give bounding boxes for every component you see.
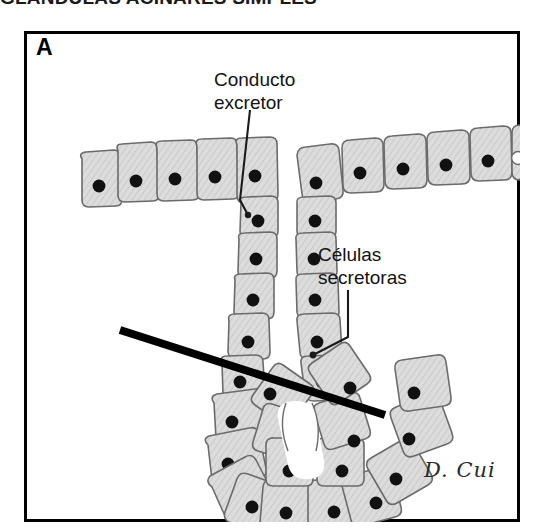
hollow-nucleus-cell bbox=[512, 125, 520, 180]
label-conducto-excretor: Conducto excretor bbox=[214, 68, 295, 114]
surface-epithelium-right bbox=[297, 125, 520, 201]
panel-letter: A bbox=[36, 36, 53, 59]
figure-page: GLÁNDULAS ACINARES SIMPLES bbox=[0, 0, 543, 531]
artist-signature: D. Cui bbox=[424, 458, 496, 482]
label-celulas-secretoras: Células secretoras bbox=[318, 243, 407, 289]
figure-title: GLÁNDULAS ACINARES SIMPLES bbox=[0, 0, 543, 13]
